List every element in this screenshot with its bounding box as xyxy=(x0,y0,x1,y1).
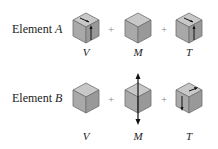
symbol-t: T xyxy=(179,130,199,142)
plus-operator: + xyxy=(161,93,167,105)
label-variable: A xyxy=(55,22,62,36)
symbol-m: M xyxy=(128,130,148,142)
plus-operator: + xyxy=(108,93,114,105)
label-prefix: Element xyxy=(12,91,55,105)
cube-icon-a-t xyxy=(175,12,203,44)
symbol-v: V xyxy=(76,46,96,58)
plus-operator: + xyxy=(161,23,167,35)
symbol-m: M xyxy=(128,46,148,58)
cube-icon-b-t xyxy=(175,82,203,114)
plus-operator: + xyxy=(108,23,114,35)
cube-icon-a-v xyxy=(72,12,100,44)
cube-icon-a-m xyxy=(124,12,152,44)
element-a-label: Element A xyxy=(12,22,62,37)
cube-icon-b-m xyxy=(124,82,152,114)
symbol-t: T xyxy=(179,46,199,58)
symbol-v: V xyxy=(76,130,96,142)
element-b-label: Element B xyxy=(12,91,62,106)
label-prefix: Element xyxy=(12,22,55,36)
cube-icon-b-v xyxy=(72,82,100,114)
label-variable: B xyxy=(55,91,62,105)
